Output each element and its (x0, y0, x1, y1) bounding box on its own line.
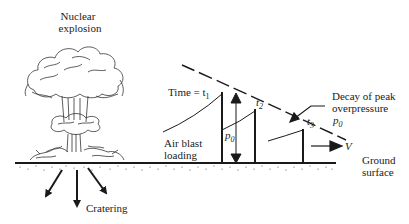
explosion-label-line2: explosion (59, 22, 102, 34)
decay-label-line1: Decay of peak (332, 90, 396, 102)
decay-p0-label: p0 (332, 114, 343, 129)
decay-label-line2: overpressure (332, 102, 388, 114)
mushroom-cloud-icon (25, 47, 124, 160)
velocity-arrow (311, 141, 342, 151)
cratering-arrows (46, 168, 106, 206)
air-blast-label-line1: Air blast (164, 137, 202, 149)
peak-overpressure-decay-curve (182, 65, 346, 140)
p0-label: p0 (224, 129, 235, 144)
velocity-label: V (345, 140, 353, 152)
time-t1-label: Time = t1 (168, 86, 210, 101)
cratering-label: Cratering (86, 202, 128, 214)
t3-label: t3 (307, 115, 314, 130)
blast-wave-diagram: Nuclear explosion Time = t1 t2 t3 p0 Dec… (0, 0, 409, 224)
ground-stipple (19, 165, 332, 170)
explosion-label-line1: Nuclear (61, 10, 96, 22)
ground-label-line1: Ground (362, 154, 396, 166)
p0-magnitude-arrow (231, 93, 241, 163)
t2-label: t2 (256, 96, 263, 111)
air-blast-label-line2: loading (164, 149, 197, 161)
ground-label-line2: surface (362, 166, 394, 178)
